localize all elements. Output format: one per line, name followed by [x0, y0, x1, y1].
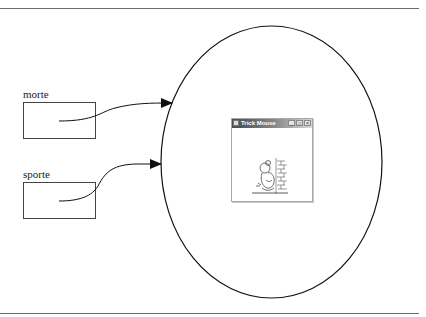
maximize-button[interactable]: □ [296, 120, 303, 126]
close-button[interactable]: × [304, 120, 311, 126]
minimize-button[interactable]: _ [288, 120, 295, 126]
diagram-canvas [0, 0, 426, 317]
reference-arrow-morte [59, 103, 172, 121]
window-titlebar: Trick Mouse _ □ × [232, 119, 312, 128]
reference-arrow-sporte [59, 164, 161, 201]
app-window: Trick Mouse _ □ × [231, 118, 313, 202]
mouse-drawing-icon [232, 128, 312, 202]
window-title: Trick Mouse [241, 119, 276, 128]
window-content [232, 128, 312, 201]
window-app-icon [233, 120, 239, 126]
